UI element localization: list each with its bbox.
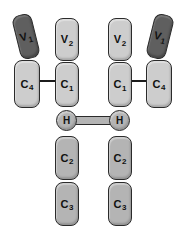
- domain-c3-left-label: C3: [61, 199, 74, 210]
- domain-c2-right: C2: [108, 136, 132, 180]
- domain-v2-left-label: V2: [61, 34, 73, 45]
- domain-c4-right: C4: [146, 60, 172, 108]
- domain-c1-left: C1: [55, 62, 79, 107]
- domain-v2-left: V2: [55, 18, 79, 61]
- domain-v1-right-label: V1: [153, 30, 168, 44]
- hinge-circle-left: H: [56, 110, 77, 131]
- domain-c1-right: C1: [108, 62, 132, 107]
- domain-v1-left-label: V1: [19, 30, 34, 44]
- hinge-right-label: H: [116, 116, 123, 126]
- domain-c3-left: C3: [55, 182, 79, 226]
- domain-c1-right-label: C1: [114, 79, 127, 90]
- domain-c2-left-label: C2: [61, 153, 74, 164]
- domain-c4-right-label: C4: [153, 79, 166, 90]
- hinge-circle-right: H: [109, 110, 130, 131]
- domain-c4-left-label: C4: [21, 79, 34, 90]
- antibody-domain-diagram: V1 V1 C4 C4 V2 V2 C1 C1 H H C2 C2 C3 C3: [0, 0, 186, 237]
- domain-v2-right: V2: [108, 18, 132, 61]
- domain-v1-left: V1: [11, 12, 41, 61]
- hinge-left-label: H: [63, 116, 70, 126]
- domain-v1-right: V1: [145, 12, 175, 61]
- domain-c2-right-label: C2: [114, 153, 127, 164]
- domain-c3-right-label: C3: [114, 199, 127, 210]
- domain-c1-left-label: C1: [61, 79, 74, 90]
- domain-c3-right: C3: [108, 182, 132, 226]
- domain-c4-left: C4: [14, 60, 40, 108]
- domain-v2-right-label: V2: [114, 34, 126, 45]
- bond-line-left: [38, 80, 56, 82]
- domain-c2-left: C2: [55, 136, 79, 180]
